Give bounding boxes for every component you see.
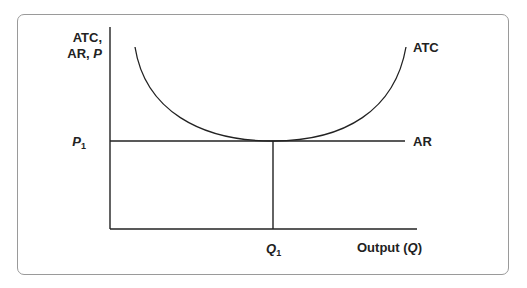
x-axis-label: Output (Q) xyxy=(357,240,422,255)
y-axis-label-line2: AR, P xyxy=(67,46,102,61)
cost-revenue-diagram: ATC, AR, P P1 ATC AR Q1 Output (Q) xyxy=(0,0,527,288)
ar-line-label: AR xyxy=(413,134,432,149)
atc-curve-label: ATC xyxy=(413,40,439,55)
quantity-q1-label: Q1 xyxy=(266,241,281,258)
price-p1-label: P1 xyxy=(72,134,86,151)
y-axis-label-line1: ATC, xyxy=(73,30,102,45)
atc-curve xyxy=(135,47,406,141)
